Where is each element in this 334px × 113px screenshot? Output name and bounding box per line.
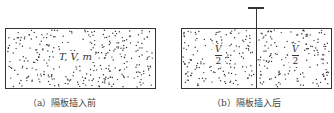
- state-label: T, V, m: [56, 51, 95, 62]
- denominator: 2: [292, 56, 298, 66]
- caption-a: （a）隔板插入前: [28, 96, 96, 109]
- numerator: V: [292, 44, 299, 54]
- numerator: V: [215, 44, 222, 54]
- right-volume: V 2: [289, 44, 302, 67]
- partition: [256, 7, 258, 89]
- caption-b: （b）隔板插入后: [212, 96, 281, 109]
- left-volume: V 2: [212, 44, 225, 67]
- denominator: 2: [215, 56, 221, 66]
